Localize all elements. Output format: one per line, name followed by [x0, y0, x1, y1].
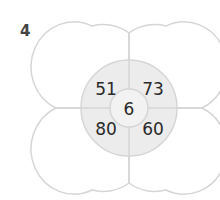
value-top-right: 73: [142, 79, 164, 99]
value-bottom-right: 60: [142, 119, 164, 139]
value-center: 6: [124, 99, 135, 119]
value-top-left: 51: [95, 79, 117, 99]
flower-diagram: 51 73 80 60 6: [0, 0, 220, 200]
value-bottom-left: 80: [95, 119, 117, 139]
